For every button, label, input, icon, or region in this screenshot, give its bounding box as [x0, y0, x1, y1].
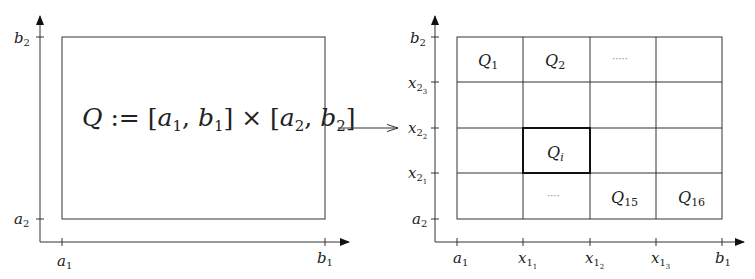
label-x22: x22 — [408, 119, 427, 141]
label-b2-right: b2 — [410, 29, 426, 48]
label-a2-right: a2 — [412, 210, 427, 229]
label-b1: b1 — [317, 249, 333, 268]
label-x23: x23 — [408, 74, 427, 96]
cell-qi: Qi — [547, 143, 564, 164]
cell-q15: Q15 — [611, 188, 638, 209]
right-panel: Q1 Q2 ····· Qi ···· Q15 Q16 b2 x23 x22 x… — [408, 16, 744, 271]
label-b2: b2 — [14, 29, 30, 48]
label-x11: x11 — [518, 249, 537, 271]
label-b1-right: b1 — [715, 249, 731, 268]
label-x12: x12 — [585, 249, 604, 271]
cell-q1: Q1 — [478, 51, 498, 72]
formula: Q := [a1, b1] × [a2, b2] — [82, 103, 356, 135]
cell-dots-bottom: ···· — [547, 190, 560, 201]
cell-q16: Q16 — [678, 188, 705, 209]
cell-dots-top: ····· — [612, 53, 628, 64]
label-a1: a1 — [57, 252, 72, 271]
cell-q2: Q2 — [545, 51, 565, 72]
label-x21: x21 — [408, 164, 427, 186]
diagram-canvas: Q := [a1, b1] × [a2, b2] b2 a2 a1 b1 — [0, 0, 755, 279]
left-panel: Q := [a1, b1] × [a2, b2] b2 a2 a1 b1 — [14, 16, 356, 271]
label-a1-right: a1 — [453, 249, 468, 268]
label-a2: a2 — [14, 210, 29, 229]
label-x13: x13 — [651, 249, 670, 271]
